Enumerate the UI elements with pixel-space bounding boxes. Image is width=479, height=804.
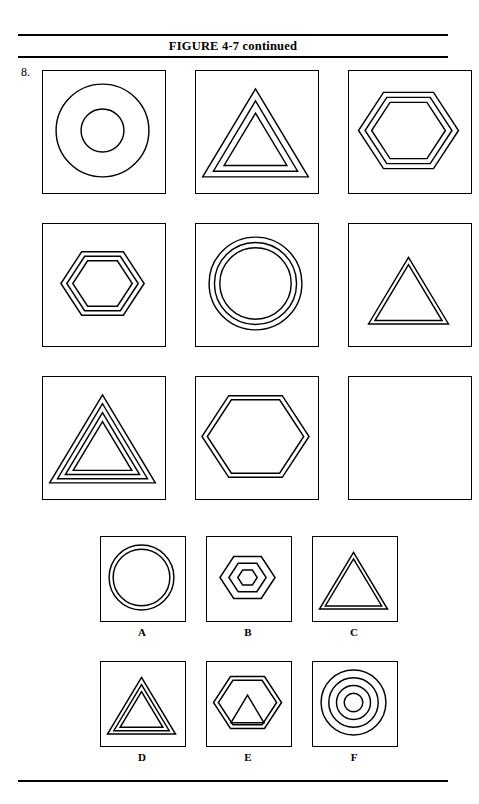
triangle-outline	[224, 113, 287, 165]
option-d[interactable]: D	[100, 661, 184, 765]
option-box-d[interactable]	[100, 661, 186, 747]
shape-group	[207, 537, 288, 618]
circle-ring	[214, 242, 296, 324]
rule-under-title	[18, 56, 448, 58]
circle-ring	[321, 670, 386, 735]
hexagon-outline	[207, 400, 303, 473]
hexagon-outline	[73, 261, 133, 306]
circle-ring	[209, 237, 302, 330]
option-box-a[interactable]	[100, 536, 186, 622]
triangle-outline	[213, 101, 297, 171]
option-c[interactable]: C	[312, 536, 396, 640]
option-e[interactable]: E	[206, 661, 290, 765]
option-box-f[interactable]	[312, 661, 398, 747]
figure-title: FIGURE 4-7 continued	[18, 37, 448, 55]
matrix-cell-r3c1	[42, 376, 166, 500]
figure-page: FIGURE 4-7 continued 8. ABCDEF	[0, 0, 479, 804]
option-label-b: B	[206, 626, 290, 638]
shape-group	[43, 377, 162, 496]
rule-top	[18, 34, 448, 36]
circle-ring	[109, 545, 174, 610]
shape-group	[43, 71, 162, 190]
hexagon-outline	[67, 256, 138, 310]
hexagon-outline	[213, 677, 281, 729]
circle-ring	[113, 549, 170, 606]
option-b[interactable]: B	[206, 536, 290, 640]
shape-group	[101, 662, 182, 743]
triangle-outline	[325, 559, 381, 606]
shape-group	[196, 224, 315, 343]
triangle-outline	[375, 265, 442, 321]
option-f[interactable]: F	[312, 661, 396, 765]
hexagon-outline	[238, 570, 257, 585]
circle-ring	[81, 109, 124, 152]
matrix-cell-r3c2	[195, 376, 319, 500]
matrix-cell-r1c3	[348, 70, 472, 194]
shape-group	[196, 71, 315, 190]
matrix-cell-r1c2	[195, 70, 319, 194]
matrix-cell-r2c1	[42, 223, 166, 347]
shape-group	[43, 224, 162, 343]
option-box-b[interactable]	[206, 536, 292, 622]
triangle-outline	[369, 257, 449, 324]
hexagon-outline	[359, 92, 459, 168]
matrix-cell-r2c2	[195, 223, 319, 347]
hexagon-outline	[202, 396, 309, 478]
option-a[interactable]: A	[100, 536, 184, 640]
shape-group	[207, 662, 288, 743]
shape-group	[313, 537, 394, 618]
triangle-outline	[319, 552, 387, 609]
circle-ring	[56, 84, 149, 177]
option-label-e: E	[206, 751, 290, 763]
matrix-cell-r2c3	[348, 223, 472, 347]
shape-group	[349, 224, 468, 343]
item-number: 8.	[21, 66, 30, 78]
hexagon-outline	[229, 563, 266, 591]
option-label-d: D	[100, 751, 184, 763]
shape-group	[101, 537, 182, 618]
hexagon-outline	[365, 97, 452, 163]
hexagon-outline	[218, 680, 276, 724]
option-label-c: C	[312, 626, 396, 638]
shape-group	[313, 662, 394, 743]
shape-group	[196, 377, 315, 496]
hexagon-outline	[372, 102, 446, 158]
shape-group	[349, 71, 468, 190]
triangle-outline	[58, 404, 148, 479]
option-label-f: F	[312, 751, 396, 763]
option-label-a: A	[100, 626, 184, 638]
circle-ring	[336, 685, 370, 719]
matrix-cell-r3c3[interactable]	[348, 376, 472, 500]
option-box-e[interactable]	[206, 661, 292, 747]
circle-ring	[344, 693, 363, 712]
circle-ring	[220, 248, 291, 319]
matrix-cell-r1c1	[42, 70, 166, 194]
option-box-c[interactable]	[312, 536, 398, 622]
triangle-outline	[231, 695, 264, 723]
rule-bottom	[18, 780, 448, 782]
